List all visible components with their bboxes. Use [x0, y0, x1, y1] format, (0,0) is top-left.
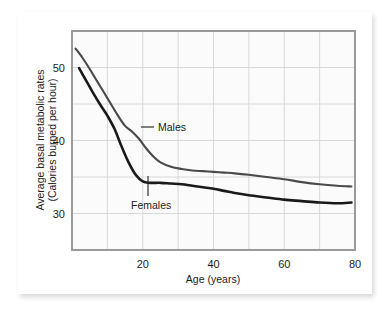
chart-svg: 20406080 304050 Age (years) Average basa… — [0, 0, 390, 316]
x-tick-60: 60 — [278, 258, 290, 270]
x-tick-20: 20 — [137, 258, 149, 270]
x-axis-title: Age (years) — [186, 273, 240, 285]
y-axis-title-line2: (Calories burned per hour) — [46, 78, 58, 201]
y-tick-50: 50 — [53, 62, 65, 74]
basal-metabolic-rate-chart: 20406080 304050 Age (years) Average basa… — [0, 0, 390, 316]
x-tick-40: 40 — [207, 258, 219, 270]
males-label: Males — [158, 121, 186, 133]
y-axis-title-line1: Average basal metabolic rates — [34, 69, 46, 210]
y-tick-30: 30 — [53, 208, 65, 220]
x-tick-80: 80 — [349, 258, 361, 270]
females-label: Females — [131, 199, 171, 211]
x-axis-tick-labels: 20406080 — [137, 258, 362, 270]
y-axis-title: Average basal metabolic rates (Calories … — [34, 69, 58, 210]
